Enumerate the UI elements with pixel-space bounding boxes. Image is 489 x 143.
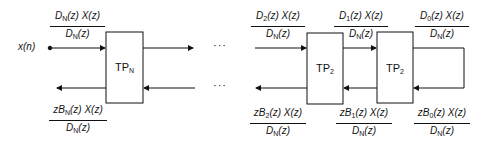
fraction-top-2: D2(z) X(z) DN(z) bbox=[251, 10, 305, 43]
fraction-bottom-2: zB2(z) X(z) DN(z) bbox=[250, 107, 306, 140]
fraction-top-0: D0(z) X(z) DN(z) bbox=[415, 10, 469, 43]
ellipsis-bottom: ··· bbox=[213, 79, 227, 91]
block-tp2-b-label: TP2 bbox=[377, 62, 413, 75]
block-tpN-label: TPN bbox=[106, 61, 143, 74]
fraction-top-1: D1(z) X(z) DN(z) bbox=[334, 10, 388, 43]
block-tp2-a-label: TP2 bbox=[307, 62, 343, 75]
fraction-top-left: DN(z) X(z) DN(z) bbox=[50, 10, 105, 43]
fraction-bottom-1: zB1(z) X(z) DN(z) bbox=[336, 107, 392, 140]
input-label: x(n) bbox=[18, 41, 35, 52]
fraction-bottom-0: zB0(z) X(z) DN(z) bbox=[414, 107, 470, 140]
fraction-bottom-left: zBN(z) X(z) DN(z) bbox=[49, 104, 107, 137]
ellipsis-top: ··· bbox=[213, 39, 227, 51]
